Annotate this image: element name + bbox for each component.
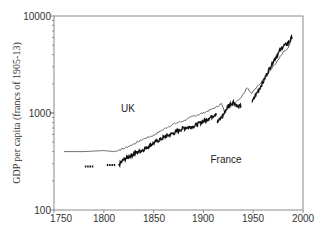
y-tick-label-100: 100: [34, 205, 51, 216]
uk-series-line: [64, 38, 292, 152]
y-axis-title: GDP per capita (francs of 1905-13): [11, 42, 23, 184]
x-tick-label-1900: 1900: [192, 213, 215, 224]
france-series-line: [217, 101, 241, 123]
y-axis-tick-labels: 10000 1000 100: [23, 11, 51, 216]
uk-label: UK: [121, 103, 135, 114]
x-tick-label-2000: 2000: [292, 213, 315, 224]
x-tick-label-1850: 1850: [143, 213, 166, 224]
x-tick-label-1950: 1950: [242, 213, 265, 224]
x-tick-label-1800: 1800: [93, 213, 116, 224]
y-tick-label-10000: 10000: [23, 11, 51, 22]
gdp-per-capita-chart: 10000 1000 100 1750 1800 1850 1900 1950 …: [0, 0, 326, 233]
x-tick-label-1750: 1750: [50, 213, 73, 224]
france-series-line: [119, 113, 217, 165]
france-series-line: [252, 36, 292, 102]
france-label: France: [210, 154, 242, 165]
series-layer: [64, 36, 292, 167]
plot-frame: [54, 16, 303, 210]
y-tick-label-1000: 1000: [29, 108, 52, 119]
x-axis-tick-labels: 1750 1800 1850 1900 1950 2000: [50, 213, 315, 224]
